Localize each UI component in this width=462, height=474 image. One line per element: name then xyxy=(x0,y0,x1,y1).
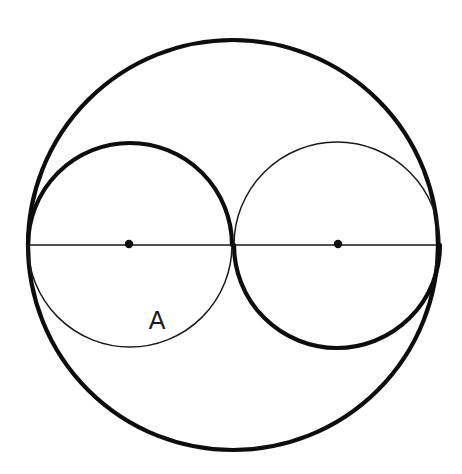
geometry-diagram-svg: A xyxy=(0,0,462,474)
left-circle-center-dot xyxy=(125,240,133,248)
region-label-A: A xyxy=(149,306,166,334)
geometry-figure-canvas: A xyxy=(0,0,462,474)
right-circle-center-dot xyxy=(334,240,342,248)
